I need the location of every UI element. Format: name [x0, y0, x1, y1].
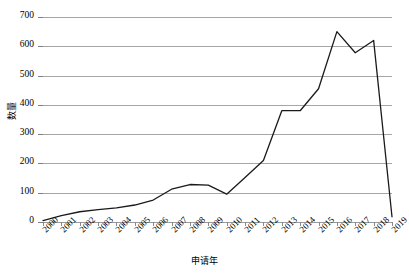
data-series-line: [43, 32, 392, 221]
plot-area: [0, 0, 409, 275]
x-axis-title: 申请年: [0, 254, 409, 267]
line-chart: 数量 0100200300400500600700 20002001200220…: [0, 0, 409, 275]
